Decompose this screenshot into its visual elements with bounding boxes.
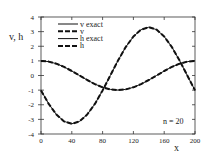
series-h-exact [41, 61, 195, 90]
y-tick-label: 0 [31, 72, 35, 80]
x-tick-label: 80 [99, 137, 107, 145]
y-tick-label: -2 [28, 101, 34, 109]
y-axis-label: v, h [9, 31, 23, 42]
series-v-exact [41, 27, 195, 124]
series-h [41, 61, 195, 90]
y-tick-label: -1 [28, 87, 34, 95]
y-tick-label: 4 [31, 14, 35, 22]
x-tick-label: 120 [128, 137, 139, 145]
chart: 0408012016020043210-1-2-3-4 v exactvh ex… [0, 0, 212, 157]
x-tick-label: 160 [159, 137, 170, 145]
x-tick-label: 0 [39, 137, 43, 145]
legend-label: h [80, 41, 84, 50]
y-tick-label: 1 [31, 57, 35, 65]
plot-curves [41, 27, 195, 124]
x-axis-label: x [174, 142, 179, 153]
annotation-n: n = 20 [163, 117, 184, 126]
x-tick-label: 40 [68, 137, 76, 145]
x-tick-label: 200 [190, 137, 201, 145]
legend: v exactvh exacth [58, 20, 104, 51]
y-tick-label: 2 [31, 43, 35, 51]
y-tick-label: -4 [28, 131, 34, 139]
series-v [41, 27, 195, 124]
y-tick-label: 3 [31, 28, 35, 36]
y-tick-label: -3 [28, 116, 34, 124]
